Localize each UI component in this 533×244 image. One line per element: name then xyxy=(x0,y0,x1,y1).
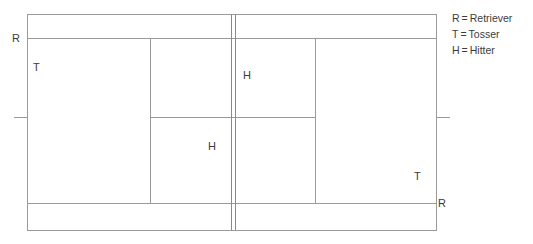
legend-value-tosser: Tosser xyxy=(469,28,500,40)
label-hitter-upper: H xyxy=(243,70,251,81)
label-retriever-top-left: R xyxy=(12,33,20,44)
label-retriever-bottom-right: R xyxy=(438,198,446,209)
label-tosser-top-left: T xyxy=(33,62,40,73)
legend-equals-tosser: = xyxy=(458,28,468,40)
legend-key-retriever: R xyxy=(452,12,460,24)
legend-equals-hitter: = xyxy=(460,44,470,56)
legend-value-retriever: Retriever xyxy=(470,12,513,24)
legend-item-tosser: T=Tosser xyxy=(452,26,532,42)
label-hitter-lower: H xyxy=(208,141,216,152)
legend-key-hitter: H xyxy=(452,44,460,56)
legend-item-retriever: R=Retriever xyxy=(452,10,532,26)
legend-item-hitter: H=Hitter xyxy=(452,42,532,58)
label-tosser-bottom-right: T xyxy=(414,171,421,182)
tennis-court-diagram: R T H H T R R=Retriever T=Tosser H=Hitte… xyxy=(0,0,533,244)
legend-value-hitter: Hitter xyxy=(470,44,495,56)
legend-equals-retriever: = xyxy=(460,12,470,24)
legend: R=Retriever T=Tosser H=Hitter xyxy=(452,10,532,58)
